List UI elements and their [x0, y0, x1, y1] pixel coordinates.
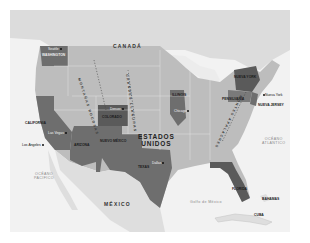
city-dot-icon — [65, 132, 67, 134]
label-bahamas: BAHAMAS — [262, 198, 279, 201]
label-pacific-ocean: OCÉANO PACÍFICO — [34, 172, 54, 181]
label-state-new-jersey: NUEVA JERSEY — [258, 104, 284, 107]
label-mexico: MÉXICO — [104, 202, 131, 207]
map-frame: CANADÁ ESTADOS UNIDOS MÉXICO CUBA BAHAMA… — [10, 10, 290, 232]
label-usa-line2: UNIDOS — [138, 141, 175, 148]
label-gulf-of-mexico: Golfo de México — [190, 200, 222, 204]
label-usa: ESTADOS UNIDOS — [138, 134, 175, 147]
city-name: Dallas — [152, 161, 161, 165]
label-state-arizona: ARIZONA — [74, 144, 89, 147]
label-state-colorado: COLORADO — [102, 116, 122, 119]
city-name: Miami — [250, 197, 259, 201]
label-city-chicago: Chicago — [174, 110, 189, 113]
city-dot-icon — [42, 144, 44, 146]
city-name: Chicago — [174, 109, 186, 113]
label-city-los-angeles: Los Ángeles — [22, 144, 44, 147]
label-state-florida: FLORIDA — [232, 188, 247, 191]
city-dot-icon — [187, 110, 189, 112]
city-name: Nueva York — [265, 93, 282, 97]
label-state-texas: TEXAS — [138, 166, 149, 169]
label-city-dallas: Dallas — [152, 162, 164, 165]
city-name: Seattle — [48, 47, 59, 51]
label-city-las-vegas: Las Vegas — [48, 132, 67, 135]
city-dot-icon — [162, 162, 164, 164]
label-cuba: CUBA — [254, 214, 264, 217]
label-canada: CANADÁ — [113, 44, 142, 49]
label-state-washington: WASHINGTON — [42, 54, 65, 57]
label-city-denver: Denver — [110, 108, 124, 111]
label-city-seattle: Seattle — [48, 48, 62, 51]
city-name: Denver — [110, 107, 121, 111]
label-city-new-york: Nueva York — [262, 94, 282, 97]
label-atlantic-line2: ATLÁNTICO — [262, 141, 286, 145]
city-dot-icon — [122, 108, 124, 110]
map-canvas — [10, 10, 290, 232]
label-state-illinois: ILLINOIS — [172, 94, 186, 97]
label-state-new-mexico: NUEVO MÉXICO — [100, 140, 126, 143]
city-dot-icon — [60, 48, 62, 50]
label-state-california: CALIFORNIA — [25, 122, 46, 125]
label-pacific-line2: PACÍFICO — [34, 176, 54, 180]
city-name: Las Vegas — [48, 131, 64, 135]
city-name: Los Ángeles — [22, 143, 41, 147]
label-atlantic-ocean: OCÉANO ATLÁNTICO — [262, 137, 286, 146]
label-state-new-york: NUEVA YORK — [234, 76, 256, 79]
label-city-miami: Miami — [250, 198, 259, 201]
